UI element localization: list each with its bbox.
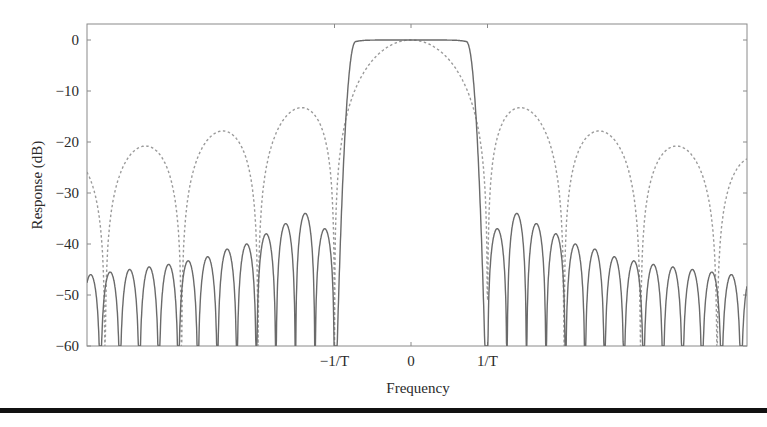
dashed-series-line [87, 40, 747, 346]
y-tick-label: 0 [72, 32, 80, 48]
x-axis-ticks: −1/T01/T [320, 24, 498, 369]
y-tick-label: −60 [56, 338, 79, 354]
x-tick-label: −1/T [320, 353, 349, 369]
y-axis-ticks: 0−10−20−30−40−50−60 [56, 32, 747, 354]
bottom-rule-divider [0, 408, 767, 413]
response-chart: 0−10−20−30−40−50−60 −1/T01/T Frequency R… [0, 0, 767, 427]
solid-series-line [87, 40, 747, 346]
y-tick-label: −40 [56, 236, 79, 252]
y-axis-label: Response (dB) [29, 141, 46, 230]
plot-area: 0−10−20−30−40−50−60 −1/T01/T [56, 24, 747, 369]
plot-frame [87, 24, 747, 346]
y-tick-label: −30 [56, 185, 79, 201]
x-axis-label: Frequency [386, 380, 450, 396]
y-tick-label: −10 [56, 83, 79, 99]
y-tick-label: −50 [56, 287, 79, 303]
x-tick-label: 1/T [477, 353, 498, 369]
x-tick-label: 0 [407, 353, 415, 369]
y-tick-label: −20 [56, 134, 79, 150]
